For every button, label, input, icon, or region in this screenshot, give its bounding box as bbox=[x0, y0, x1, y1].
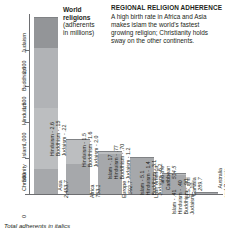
chart-title: World religions (adherents in millions) bbox=[63, 6, 109, 36]
bar-annotation-line: Islam - 5.1 bbox=[139, 171, 145, 196]
bar-annotation-line: Buddhism - .15 bbox=[55, 120, 61, 156]
bar-annotation-line: Judaism - 2.0 bbox=[93, 136, 99, 168]
category-label-africa: Africa753.1 bbox=[89, 184, 101, 198]
category-label-line: and Oceania bbox=[223, 168, 225, 198]
bar-annotations: Hinduism - 2.6Buddhism - .15Judaism - .2… bbox=[49, 120, 67, 156]
bar-annotation-line: Hinduism - .77 bbox=[113, 145, 119, 179]
footnote: Total adherents in italics bbox=[4, 222, 84, 230]
category-total: 289.7 bbox=[197, 177, 203, 190]
bar-annotation-line: Hinduism - 2.6 bbox=[49, 122, 55, 156]
bar-annotation-line: Buddhism - .70 bbox=[119, 144, 125, 180]
bar-annotation-line: Judaism - .22 bbox=[61, 124, 67, 156]
bar-segment-christianity bbox=[66, 164, 90, 194]
category-label-latin-america-and-the-caribbean: Latin Americaand theCaribbean514.5 bbox=[153, 166, 177, 198]
religion-axis-label-christianity: Christianity bbox=[21, 167, 27, 191]
bar-annotation-line: Hinduism - .40 bbox=[177, 180, 183, 214]
chart-title-line1: World bbox=[63, 6, 82, 13]
category-label-europe: Europe592.7 bbox=[121, 181, 133, 198]
bar-annotation-line: Islam - .17 bbox=[107, 155, 113, 180]
infographic-page: 05001,0001,5002,000 ChristianityIslamHin… bbox=[0, 0, 225, 243]
chart-title-line3: (adherents bbox=[63, 21, 95, 28]
bar-segment-christianity bbox=[34, 169, 58, 194]
bar-annotations: Hinduism - 1.5Buddhism - 1.6Judaism - 2.… bbox=[81, 132, 99, 168]
category-total: 514.5 bbox=[171, 166, 177, 179]
y-tick-label: 0 bbox=[21, 194, 27, 218]
bar-segment-hinduism bbox=[34, 48, 58, 108]
category-label-asia: Asia2,453.7 bbox=[57, 180, 69, 198]
chart-title-line4: in millions) bbox=[63, 29, 94, 36]
category-label-u-s-and-canada: U.S. andCanada289.7 bbox=[185, 177, 203, 198]
religion-axis-label-islam: Islam bbox=[21, 134, 27, 158]
side-panel: REGIONAL RELIGION ADHERENCE A high birth… bbox=[111, 4, 223, 45]
bar-segment-buddhism bbox=[34, 18, 58, 48]
category-label-australia-and-oceania: Australiaand Oceania27.6 bbox=[217, 168, 225, 198]
category-total: 2,453.7 bbox=[63, 180, 69, 198]
side-panel-body: A high birth rate in Africa and Asia mak… bbox=[111, 13, 223, 45]
category-total: 753.1 bbox=[95, 184, 101, 197]
category-total: 592.7 bbox=[127, 181, 133, 194]
bar-annotations: Islam - .17Hinduism - .77Buddhism - .70J… bbox=[107, 144, 131, 180]
religion-axis-label-hinduism: Hinduism bbox=[21, 101, 27, 125]
bar-annotation-line: Hinduism - 1.5 bbox=[81, 133, 87, 167]
side-panel-heading: REGIONAL RELIGION ADHERENCE bbox=[111, 4, 223, 12]
y-axis-line bbox=[29, 14, 30, 195]
bar-annotation-line: Buddhism - 1.6 bbox=[87, 132, 93, 168]
bar-annotation-line: Judaism - 1.2 bbox=[125, 148, 131, 180]
bar-annotation-line: Hinduism - 1.4 bbox=[145, 161, 151, 195]
religion-axis-label-judaism: Judaism bbox=[21, 29, 27, 53]
bar-asia[interactable] bbox=[34, 17, 58, 194]
religion-axis-label-buddhism: Buddhism bbox=[21, 67, 27, 91]
chart-title-line2: religions bbox=[63, 14, 90, 21]
